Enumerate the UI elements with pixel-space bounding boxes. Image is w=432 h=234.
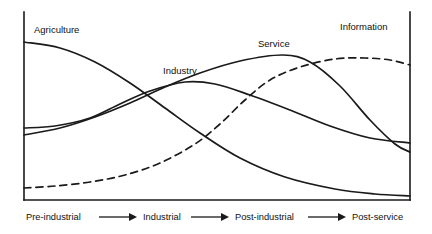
figure-container: AgricultureIndustryServiceInformation Pr…: [0, 0, 432, 234]
curve-label-agriculture: Agriculture: [34, 24, 79, 35]
curve-label-information: Information: [340, 21, 388, 32]
curve-label-industry: Industry: [163, 65, 197, 76]
stage-label-post-industrial: Post-industrial: [235, 212, 294, 222]
sector-evolution-chart: AgricultureIndustryServiceInformation Pr…: [0, 0, 432, 234]
stage-label-industrial: Industrial: [143, 212, 181, 222]
curve-label-service: Service: [258, 38, 290, 49]
stage-label-pre-industrial: Pre-industrial: [26, 212, 81, 222]
stage-label-post-service: Post-service: [352, 212, 403, 222]
